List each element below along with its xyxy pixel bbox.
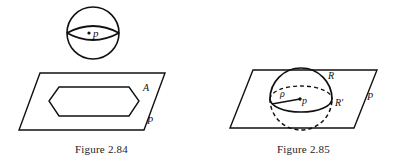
figure-2-85: ρ p R R′ P Figure 2.85 bbox=[202, 0, 405, 167]
label-region-r-prime: R′ bbox=[334, 97, 344, 108]
label-point-p: p bbox=[92, 27, 99, 39]
label-region-a: A bbox=[142, 82, 150, 93]
label-plane-p: P bbox=[146, 115, 153, 126]
label-radius-rho: ρ bbox=[279, 88, 285, 99]
figure-2-85-caption: Figure 2.85 bbox=[202, 143, 405, 155]
hexagon-region bbox=[49, 87, 139, 116]
label-point-p: p bbox=[301, 95, 307, 106]
figure-2-85-drawing: ρ p R R′ P bbox=[202, 0, 405, 143]
point-p-dot bbox=[87, 31, 90, 34]
figure-2-84-caption: Figure 2.84 bbox=[0, 143, 203, 155]
intersection-circle-front-arc bbox=[270, 99, 332, 112]
figure-2-84-drawing: p A P bbox=[0, 0, 203, 143]
figure-2-84: p A P Figure 2.84 bbox=[0, 0, 203, 167]
radius-segment bbox=[272, 99, 300, 104]
label-plane-p: P bbox=[366, 91, 373, 102]
label-region-r: R bbox=[327, 70, 334, 81]
sphere-lower-hemisphere-dashed bbox=[270, 99, 332, 130]
